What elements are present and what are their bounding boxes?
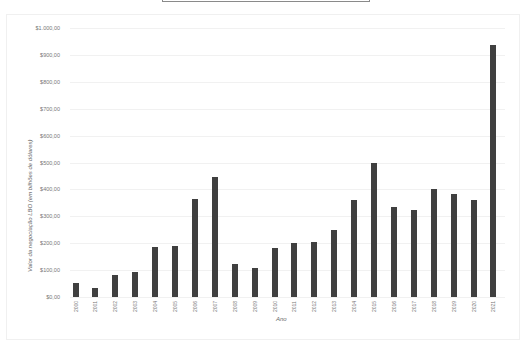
x-tick-label: 2020	[471, 301, 477, 312]
gridline	[70, 216, 505, 217]
y-tick-label: $1.000,00	[0, 25, 60, 31]
y-tick-label: $300,00	[0, 213, 60, 219]
gridline	[70, 28, 505, 29]
x-tick-label: 2011	[291, 301, 297, 312]
bar-2018	[431, 189, 437, 297]
x-tick-label: 2009	[252, 301, 258, 312]
x-tick-label: 2004	[152, 301, 158, 312]
y-tick-label: $600,00	[0, 133, 60, 139]
bar-2003	[132, 272, 138, 297]
bar-2016	[391, 207, 397, 297]
bar-2017	[411, 210, 417, 297]
x-tick-label: 2000	[73, 301, 79, 312]
bar-chart: Valor da negociação LBO (em bilhões de d…	[0, 0, 527, 345]
bar-2009	[252, 268, 258, 297]
bar-2006	[192, 199, 198, 297]
y-tick-label: $0,00	[0, 294, 60, 300]
bar-2019	[451, 194, 457, 297]
bar-2015	[371, 163, 377, 297]
x-tick-label: 2013	[331, 301, 337, 312]
x-tick-label: 2006	[192, 301, 198, 312]
x-tick-label: 2019	[451, 301, 457, 312]
gridline	[70, 189, 505, 190]
bar-2005	[172, 246, 178, 297]
x-tick-label: 2003	[132, 301, 138, 312]
y-tick-label: $500,00	[0, 160, 60, 166]
x-tick-label: 2017	[411, 301, 417, 312]
x-tick-label: 2015	[371, 301, 377, 312]
y-tick-label: $400,00	[0, 186, 60, 192]
bar-2004	[152, 247, 158, 297]
x-tick-label: 2010	[272, 301, 278, 312]
bar-2000	[73, 283, 79, 297]
x-tick-label: 2007	[212, 301, 218, 312]
gridline	[70, 136, 505, 137]
x-tick-label: 2021	[490, 301, 496, 312]
bar-2002	[112, 275, 118, 297]
x-tick-label: 2008	[232, 301, 238, 312]
y-tick-label: $700,00	[0, 106, 60, 112]
y-tick-label: $200,00	[0, 240, 60, 246]
x-axis-title: Ano	[276, 316, 287, 322]
bar-2014	[351, 200, 357, 297]
bar-2021	[490, 45, 496, 297]
bar-2010	[272, 248, 278, 297]
y-tick-label: $800,00	[0, 79, 60, 85]
gridline	[70, 163, 505, 164]
x-tick-label: 2018	[431, 301, 437, 312]
x-tick-label: 2005	[172, 301, 178, 312]
gridline	[70, 82, 505, 83]
bar-2008	[232, 264, 238, 297]
x-tick-label: 2012	[311, 301, 317, 312]
x-tick-label: 2014	[351, 301, 357, 312]
gridline	[70, 55, 505, 56]
bar-2013	[331, 230, 337, 297]
bar-2007	[212, 177, 218, 297]
gridline	[70, 109, 505, 110]
x-tick-label: 2001	[92, 301, 98, 312]
y-tick-label: $900,00	[0, 52, 60, 58]
y-tick-label: $100,00	[0, 267, 60, 273]
gridline	[70, 297, 505, 298]
bar-2001	[92, 288, 98, 297]
gridline	[70, 243, 505, 244]
bar-2011	[291, 243, 297, 297]
gridline	[70, 270, 505, 271]
x-tick-label: 2002	[112, 301, 118, 312]
bar-2020	[471, 200, 477, 297]
x-tick-label: 2016	[391, 301, 397, 312]
bar-2012	[311, 242, 317, 297]
